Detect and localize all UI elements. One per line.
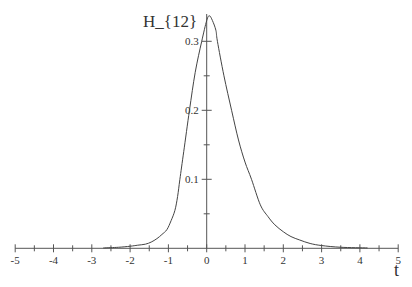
x-tick-label: -5 (11, 254, 21, 266)
x-tick-label: 1 (242, 254, 248, 266)
y-tick-label: 0.3 (185, 35, 199, 47)
x-tick-label: -3 (87, 254, 97, 266)
line-chart: -5-4-3-2-10123450.10.20.3 H_{12} t (0, 0, 412, 287)
x-tick-label: -2 (126, 254, 135, 266)
axis-ticks: -5-4-3-2-10123450.10.20.3 (11, 35, 402, 266)
x-tick-label: 4 (357, 254, 363, 266)
y-axis-title: H_{12} (143, 12, 197, 31)
x-tick-label: 0 (204, 254, 210, 266)
h12-curve (103, 16, 367, 248)
x-axis-title: t (394, 260, 399, 280)
x-tick-label: -1 (164, 254, 173, 266)
y-tick-label: 0.1 (185, 173, 199, 185)
x-tick-label: 3 (319, 254, 325, 266)
y-tick-label: 0.2 (185, 104, 199, 116)
x-tick-label: -4 (49, 254, 59, 266)
x-tick-label: 2 (281, 254, 287, 266)
axes (15, 14, 398, 248)
